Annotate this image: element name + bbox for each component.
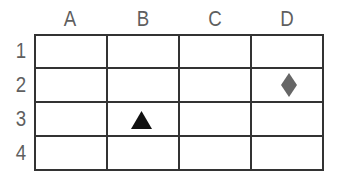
diamond-icon: [281, 73, 297, 97]
row-label-1: 1: [10, 34, 32, 68]
row-label-2: 2: [10, 68, 32, 102]
grid-divider-row-1-2: [34, 67, 324, 69]
grid-divider-row-3-4: [34, 135, 324, 137]
column-label-a: A: [39, 8, 100, 30]
grid-divider-row-2-3: [34, 101, 324, 103]
column-label-b: B: [112, 8, 173, 30]
row-label-3: 3: [10, 102, 32, 136]
triangle-icon: [131, 111, 152, 129]
row-label-4: 4: [10, 136, 32, 170]
column-label-c: C: [184, 8, 245, 30]
column-label-d: D: [256, 8, 317, 30]
